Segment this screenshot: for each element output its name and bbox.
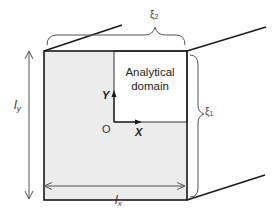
y-axis-label: Y [102, 90, 109, 101]
xi1-brace [190, 55, 204, 197]
ly-label: ly [14, 99, 21, 113]
lx-subscript: x [118, 199, 122, 208]
depth-line-top-left [44, 25, 122, 51]
diagram-graphic [0, 0, 280, 216]
depth-line-top-right [187, 27, 266, 51]
x-axis-label: X [135, 127, 142, 138]
analytical-domain-label: Analytical domain [115, 65, 185, 93]
analytical-domain-label-line2: domain [115, 79, 185, 93]
diagram-canvas: Analytical domain Y X O ly lx ξ2 ξ1 [0, 0, 280, 216]
xi2-brace [47, 27, 185, 45]
xi2-label: ξ2 [150, 10, 158, 20]
xi1-label: ξ1 [205, 107, 213, 117]
xi2-subscript: 2 [154, 13, 158, 20]
origin-label: O [102, 124, 111, 135]
ly-subscript: y [17, 104, 21, 113]
xi1-subscript: 1 [209, 110, 213, 117]
lx-label: lx [115, 194, 122, 208]
depth-line-bottom-right [187, 175, 265, 200]
analytical-domain-label-line1: Analytical [115, 65, 185, 79]
